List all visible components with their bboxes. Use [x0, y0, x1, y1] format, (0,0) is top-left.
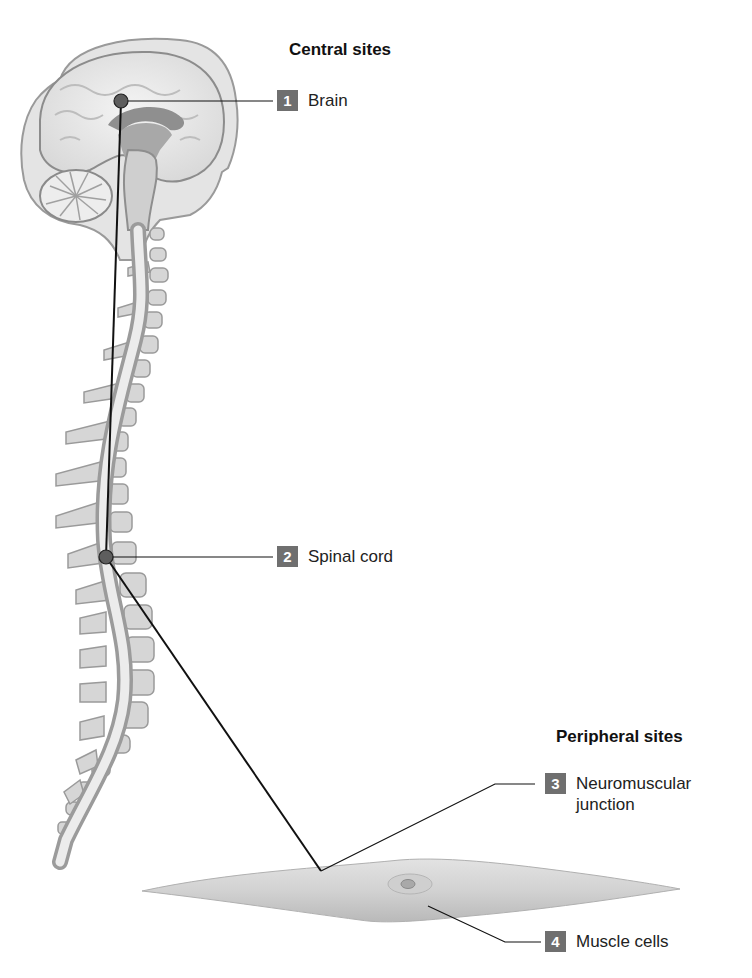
- number-badge: 3: [545, 773, 566, 794]
- anatomy-illustration: [0, 0, 752, 978]
- number-badge: 4: [545, 931, 566, 952]
- leader-lines: [106, 101, 541, 942]
- muscle-cell-illustration: [142, 859, 680, 922]
- label-text: Spinal cord: [308, 546, 393, 567]
- brain-illustration: [21, 39, 237, 260]
- number-badge: 2: [277, 546, 298, 567]
- spinal-cord-site-marker: [99, 550, 113, 564]
- label-line-2: junction: [576, 795, 635, 814]
- central-sites-heading: Central sites: [289, 40, 391, 60]
- label-text: Brain: [308, 90, 348, 111]
- number-badge: 1: [277, 90, 298, 111]
- label-text: Muscle cells: [576, 931, 669, 952]
- peripheral-sites-heading: Peripheral sites: [556, 727, 683, 747]
- label-neuromuscular-junction: 3 Neuromuscular junction: [545, 773, 691, 815]
- label-brain: 1 Brain: [277, 90, 348, 111]
- label-text: Neuromuscular junction: [576, 773, 691, 815]
- label-muscle-cells: 4 Muscle cells: [545, 931, 669, 952]
- label-line-1: Neuromuscular: [576, 774, 691, 793]
- brain-site-marker: [114, 94, 128, 108]
- label-spinal-cord: 2 Spinal cord: [277, 546, 393, 567]
